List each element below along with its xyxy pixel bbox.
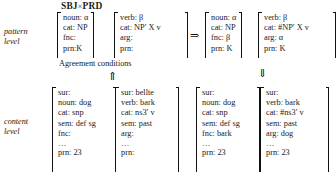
matrix-row: cat: snp: [58, 108, 110, 118]
pattern-input-verb-matrix: verb: β cat: NP′ X v arg: prn:: [114, 12, 188, 58]
matrix-row: cat: NP′ X v: [120, 23, 182, 33]
matrix-row: verb: bark: [266, 98, 323, 108]
bracket-right: [332, 12, 336, 58]
output-arrow-down-icon: ⇓: [258, 68, 267, 79]
matrix-row: cat: snp: [202, 108, 254, 118]
matrix-row: noun: dog: [58, 98, 110, 108]
matrix-row: prn: K: [264, 44, 330, 54]
matrix-row: prn: 23: [202, 148, 254, 158]
matrix-row: noun: α: [211, 13, 236, 23]
matrix-rows: sur: noun: dog cat: snp sem: def sg fnc:…: [56, 87, 112, 172]
pattern-level-label-line2: level: [4, 37, 28, 47]
content-output-verb-matrix: sur: verb: bark cat: #ns3′ v sem: past a…: [260, 87, 329, 172]
figure-sbj-prd: SBJ×PRD pattern level content level noun…: [0, 0, 336, 179]
matrix-row: sem: past: [266, 119, 323, 129]
matrix-row: prn:K: [63, 44, 88, 54]
bracket-right: [184, 12, 188, 58]
matrix-row: arg: α: [264, 33, 330, 43]
matrix-row: cat: ns3′ v: [121, 108, 173, 118]
bracket-left: [57, 12, 61, 58]
matrix-row: verb: bark: [121, 98, 173, 108]
matrix-row: sem: def sg: [58, 119, 110, 129]
bracket-left: [258, 12, 262, 58]
matrix-row-ellipsis: …: [202, 140, 254, 148]
pattern-output-noun-matrix: noun: α cat: NP fnc: β prn: K: [205, 12, 242, 58]
matrix-row-ellipsis: …: [121, 140, 173, 148]
matrix-rows: noun: α cat: NP fnc: prn:K: [61, 12, 90, 58]
bracket-right: [175, 87, 179, 172]
matrix-rows: sur: noun: dog cat: snp sem: def sg fnc:…: [200, 87, 256, 172]
matrix-row: prn: 23: [266, 148, 323, 158]
agreement-conditions-label: Agreement conditions: [59, 59, 132, 68]
matrix-row: prn:: [120, 44, 182, 54]
bracket-right: [238, 12, 242, 58]
rule-arrow-icon: ⇒: [190, 30, 199, 41]
content-output-noun-matrix: sur: noun: dog cat: snp sem: def sg fnc:…: [196, 87, 260, 172]
bracket-left: [52, 87, 56, 172]
matrix-row: prn: K: [211, 44, 236, 54]
bracket-left: [205, 12, 209, 58]
matrix-rows: noun: α cat: NP fnc: β prn: K: [209, 12, 238, 58]
matrix-row: noun: dog: [202, 98, 254, 108]
matrix-row: sur: bellte: [121, 88, 173, 98]
figure-title: SBJ×PRD: [61, 1, 102, 11]
matrix-row: noun: α: [63, 13, 88, 23]
matrix-row: cat: NP: [63, 23, 88, 33]
matrix-row: fnc: β: [211, 33, 236, 43]
matrix-row: cat: #NP′ X v: [264, 23, 330, 33]
matrix-rows: verb: β cat: #NP′ X v arg: α prn: K: [262, 12, 332, 58]
matrix-row: fnc: bark: [202, 129, 254, 139]
matrix-rows: verb: β cat: NP′ X v arg: prn:: [118, 12, 184, 58]
matrix-row: sem: past: [121, 119, 173, 129]
content-input-verb-matrix: sur: bellte verb: bark cat: ns3′ v sem: …: [115, 87, 179, 172]
title-sbj: SBJ: [61, 1, 78, 11]
content-level-label: content level: [4, 117, 28, 136]
bracket-left: [115, 87, 119, 172]
matrix-row: prn: 23: [58, 148, 110, 158]
matrix-row-ellipsis: …: [58, 140, 110, 148]
matrix-row: cat: NP: [211, 23, 236, 33]
pattern-input-noun-matrix: noun: α cat: NP fnc: prn:K: [57, 12, 94, 58]
matrix-rows: sur: verb: bark cat: #ns3′ v sem: past a…: [264, 87, 325, 172]
matrix-row: fnc:: [58, 129, 110, 139]
bracket-left: [260, 87, 264, 172]
matrix-rows: sur: bellte verb: bark cat: ns3′ v sem: …: [119, 87, 175, 172]
bracket-left: [196, 87, 200, 172]
matrix-row: arg: dog: [266, 129, 323, 139]
matrix-row: prn:: [121, 148, 173, 158]
matrix-row: fnc:: [63, 33, 88, 43]
matrix-row: arg:: [121, 129, 173, 139]
title-prd: PRD: [82, 1, 102, 11]
matrix-row: cat: #ns3′ v: [266, 108, 323, 118]
pattern-level-label-line1: pattern: [4, 27, 28, 37]
content-level-label-line1: content: [4, 117, 28, 127]
bracket-right: [325, 87, 329, 172]
matrix-row: sur:: [266, 88, 323, 98]
content-input-noun-matrix: sur: noun: dog cat: snp sem: def sg fnc:…: [52, 87, 116, 172]
matrix-row: verb: β: [120, 13, 182, 23]
matrix-row: arg:: [120, 33, 182, 43]
bracket-right: [90, 12, 94, 58]
match-arrow-up-icon: ⇑: [108, 71, 117, 82]
matrix-row-ellipsis: …: [266, 140, 323, 148]
matrix-row: verb: β: [264, 13, 330, 23]
matrix-row: sur:: [202, 88, 254, 98]
bracket-left: [114, 12, 118, 58]
content-level-label-line2: level: [4, 127, 28, 137]
matrix-row: sur:: [58, 88, 110, 98]
matrix-row: sem: def sg: [202, 119, 254, 129]
pattern-level-label: pattern level: [4, 27, 28, 46]
pattern-output-verb-matrix: verb: β cat: #NP′ X v arg: α prn: K: [258, 12, 336, 58]
